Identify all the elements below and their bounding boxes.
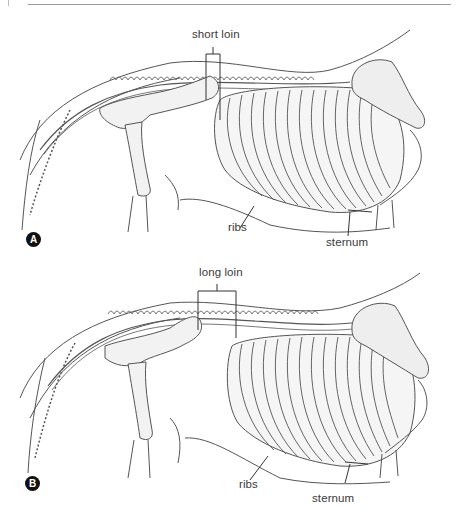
figure-panel-b: long loin ribs sternum B — [0, 258, 462, 517]
label-short-loin: short loin — [192, 28, 240, 40]
panel-badge-a: A — [26, 232, 41, 247]
panel-badge-b: B — [25, 476, 40, 491]
figure-panel-a: short loin ribs sternum A — [0, 0, 462, 258]
label-long-loin: long loin — [199, 266, 243, 278]
label-ribs: ribs — [228, 221, 247, 233]
label-sternum: sternum — [312, 492, 354, 504]
label-sternum: sternum — [326, 236, 368, 248]
label-ribs: ribs — [239, 478, 258, 490]
skeleton-illustration-long-loin — [0, 258, 462, 517]
